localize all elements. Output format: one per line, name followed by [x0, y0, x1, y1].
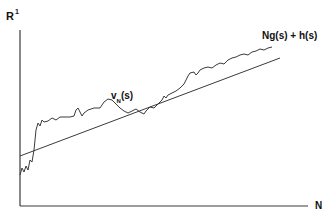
x-axis-label: N: [315, 200, 322, 211]
y-axis-label: R1: [6, 9, 19, 22]
y-axis-label-superscript: 1: [15, 8, 19, 15]
figure: R1 N Ng(s) + h(s) vN(s): [0, 0, 334, 219]
trend-line-label: Ng(s) + h(s): [262, 30, 317, 41]
y-axis-label-text: R: [6, 10, 14, 22]
curve-label-subscript: N: [117, 98, 121, 104]
curve-v-n-s: [20, 47, 272, 175]
curve-label: vN(s): [111, 90, 133, 103]
curve-label-main: v: [111, 90, 117, 101]
curve-label-tail: (s): [121, 90, 133, 101]
